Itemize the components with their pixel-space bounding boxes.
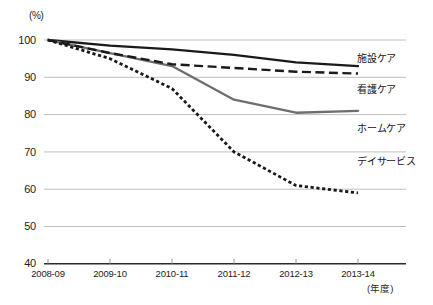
x-axis bbox=[44, 259, 406, 264]
series-label-day-service: デイサービス bbox=[357, 153, 416, 168]
x-tick-label-2009-10: 2009-10 bbox=[80, 268, 140, 279]
line-chart: (%) 100 90 80 70 60 50 40 bbox=[0, 0, 433, 305]
x-tick-label-2010-11: 2010-11 bbox=[142, 268, 202, 279]
series-label-shisetsu-care: 施設ケア bbox=[357, 50, 396, 65]
x-tick-label-2011-12: 2011-12 bbox=[204, 268, 264, 279]
x-axis-unit-label: (年度) bbox=[367, 281, 393, 295]
x-tick-label-2012-13: 2012-13 bbox=[266, 268, 326, 279]
series-label-kango-care: 看護ケア bbox=[357, 81, 396, 96]
series-label-home-care: ホームケア bbox=[357, 120, 406, 135]
series-lines bbox=[48, 40, 358, 193]
x-tick-label-2008-09: 2008-09 bbox=[18, 268, 78, 279]
x-tick-label-2013-14: 2013-14 bbox=[328, 268, 388, 279]
